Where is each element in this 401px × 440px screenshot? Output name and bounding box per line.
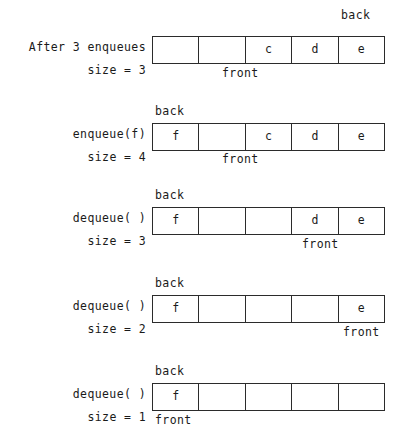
queue-cell — [246, 296, 292, 322]
back-pointer-label: back — [155, 364, 184, 378]
queue-cell — [199, 37, 245, 63]
queue-cell: d — [292, 37, 338, 63]
queue-array: f e — [152, 295, 385, 323]
queue-cell: e — [339, 124, 384, 150]
size-label: size = 2 — [87, 322, 146, 336]
queue-cell: e — [339, 208, 384, 234]
queue-cell: c — [246, 124, 292, 150]
queue-cell: c — [246, 37, 292, 63]
front-pointer-label: front — [222, 152, 259, 166]
queue-array: f d e — [152, 207, 385, 235]
front-pointer-label: front — [222, 66, 259, 80]
queue-cell — [199, 296, 245, 322]
queue-cell — [153, 37, 199, 63]
operation-label: dequeue( ) — [73, 299, 146, 313]
queue-array: f c d e — [152, 123, 385, 151]
queue-cell — [199, 384, 245, 410]
queue-cell: f — [153, 124, 199, 150]
back-pointer-label: back — [341, 8, 370, 22]
queue-cell: f — [153, 208, 199, 234]
operation-label: After 3 enqueues — [29, 40, 146, 54]
back-pointer-label: back — [155, 276, 184, 290]
queue-cell: e — [339, 37, 384, 63]
operation-label: dequeue( ) — [73, 387, 146, 401]
queue-array: c d e — [152, 36, 385, 64]
size-label: size = 3 — [87, 234, 146, 248]
queue-cell — [246, 384, 292, 410]
queue-cell: f — [153, 384, 199, 410]
queue-cell — [339, 384, 384, 410]
size-label: size = 1 — [87, 410, 146, 424]
front-pointer-label: front — [343, 325, 380, 339]
queue-cell — [199, 124, 245, 150]
back-pointer-label: back — [155, 104, 184, 118]
back-pointer-label: back — [155, 188, 184, 202]
queue-cell: e — [339, 296, 384, 322]
queue-array: f — [152, 383, 385, 411]
operation-label: enqueue(f) — [73, 127, 146, 141]
queue-cell: d — [292, 208, 338, 234]
queue-cell — [246, 208, 292, 234]
queue-cell: d — [292, 124, 338, 150]
size-label: size = 3 — [87, 63, 146, 77]
front-pointer-label: front — [302, 237, 339, 251]
queue-diagram: back After 3 enqueues size = 3 c d e fro… — [0, 0, 401, 440]
queue-cell: f — [153, 296, 199, 322]
queue-cell — [292, 384, 338, 410]
operation-label: dequeue( ) — [73, 211, 146, 225]
queue-cell — [199, 208, 245, 234]
queue-cell — [292, 296, 338, 322]
front-pointer-label: front — [155, 413, 192, 427]
size-label: size = 4 — [87, 150, 146, 164]
